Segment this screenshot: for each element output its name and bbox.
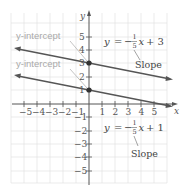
x-tick-label: −2 [58,107,71,117]
slope-annotation: Slope [131,148,158,159]
y-intercept-annotation: y-intercept [16,30,61,41]
slope-annotation: Slope [135,59,162,70]
y-tick-label: −5 [74,166,88,176]
svg-text:y: y [103,122,110,133]
equation-line2: y = − 1 5 x + 1 [103,119,164,136]
y-axis-arrow-icon [87,10,91,16]
svg-text:1: 1 [133,119,137,127]
svg-text:x: x [139,122,145,133]
x-tick-label: −4 [32,107,46,117]
y-tick-label: −3 [74,139,88,149]
equation-line1: y = − 1 5 x + 3 [103,33,164,50]
svg-text:+ 1: + 1 [146,122,164,133]
y-tick-label: −2 [74,126,87,136]
line2-left-arrow-icon [14,74,21,79]
y-tick-label: 3 [79,58,85,68]
slope-pointer [134,136,138,146]
svg-text:−: − [124,122,132,133]
y-tick-label: −4 [74,152,88,162]
x-tick-label: 2 [113,107,119,117]
svg-text:5: 5 [133,128,137,136]
line1-right-arrow-icon [166,76,174,81]
line1-left-arrow-icon [14,47,21,52]
x-tick-label: 3 [126,107,132,117]
y-tick-label: −1 [74,112,87,122]
x-tick-label: −3 [45,107,59,117]
y-axis-label: y [79,11,86,21]
svg-text:y: y [103,36,110,47]
y-tick-label: 5 [79,32,85,42]
y-intercept-annotation: y-intercept [16,58,61,69]
graph: y x −5 −4 −3 −2 −1 1 2 3 4 5 5 4 3 2 1 −… [0,0,190,196]
x-axis-label: x [174,106,179,116]
intercept-point-1 [86,87,91,92]
x-tick-label: 4 [139,107,145,117]
y-tick-label: 1 [79,85,85,95]
svg-text:1: 1 [133,33,137,41]
intercept-point-3 [86,60,91,65]
x-tick-label: 1 [100,107,106,117]
line-intercept-1 [18,76,170,106]
svg-text:5: 5 [133,42,137,50]
svg-text:−: − [124,36,132,47]
svg-text:=: = [114,122,122,133]
x-tick-label: 5 [152,107,158,117]
svg-text:=: = [114,36,122,47]
y-tick-label: 4 [79,45,85,55]
x-tick-label: −5 [19,107,33,117]
svg-text:+ 3: + 3 [146,36,164,47]
svg-text:x: x [139,36,145,47]
